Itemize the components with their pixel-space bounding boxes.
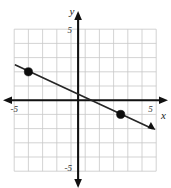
data-point-left bbox=[24, 68, 32, 76]
y-axis-label: y bbox=[69, 5, 75, 17]
x-axis-right-arrowhead bbox=[159, 96, 168, 104]
graph-svg: y x 5 -5 -5 5 bbox=[0, 0, 171, 188]
x-axis-label: x bbox=[160, 109, 166, 121]
coordinate-plane-figure: y x 5 -5 -5 5 bbox=[0, 0, 171, 188]
data-point-right bbox=[117, 110, 125, 118]
y-axis-tick-label-positive: 5 bbox=[68, 25, 73, 35]
y-axis-tick-label-negative: -5 bbox=[65, 163, 73, 173]
x-axis-tick-label-positive: 5 bbox=[148, 104, 153, 114]
y-axis-bottom-arrowhead bbox=[74, 179, 82, 188]
x-axis-tick-label-negative: -5 bbox=[10, 104, 18, 114]
y-axis-top-arrowhead bbox=[74, 11, 82, 20]
